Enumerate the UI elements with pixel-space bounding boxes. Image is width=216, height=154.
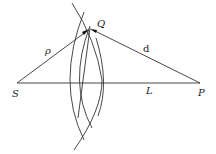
wavefront-arc-1	[70, 12, 84, 140]
segment-QP	[93, 30, 200, 83]
arrowhead-QP	[90, 29, 97, 33]
label-L: L	[145, 85, 153, 96]
segment-SQ	[17, 31, 87, 83]
wavefront-arc-3	[96, 38, 104, 116]
label-d: d	[143, 43, 150, 54]
diagram-canvas: Q ρ d S L P	[0, 0, 216, 154]
label-Q: Q	[97, 18, 105, 29]
wavefront-arc-2	[79, 26, 92, 128]
diagram: Q ρ d S L P	[0, 0, 216, 154]
label-S: S	[12, 88, 19, 99]
label-P: P	[197, 87, 205, 98]
label-rho: ρ	[44, 45, 51, 56]
